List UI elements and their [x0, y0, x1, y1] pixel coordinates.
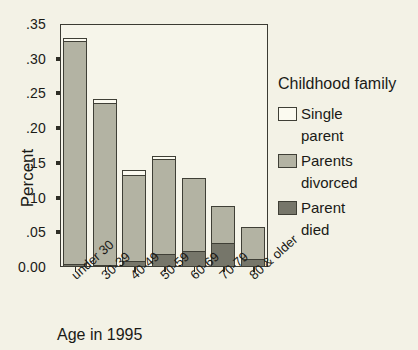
legend-entries: SingleparentParentsdivorcedParentdied [278, 106, 414, 238]
bar-segment[interactable] [211, 206, 235, 243]
legend-label-secondary: died [301, 222, 414, 238]
bar-segment[interactable] [122, 175, 146, 262]
legend-label: Parent [301, 200, 345, 216]
bar-chart-figure: 0.00.05.10.15.20.25.30.35 Percent under … [0, 0, 418, 350]
legend-entry[interactable]: Singleparent [278, 106, 414, 144]
legend-label-secondary: divorced [301, 175, 414, 191]
legend-title: Childhood family [278, 75, 414, 93]
legend-row: Parents [278, 153, 414, 169]
legend-entry[interactable]: Parentdied [278, 200, 414, 238]
bar-segment[interactable] [152, 159, 176, 254]
legend-entry[interactable]: Parentsdivorced [278, 153, 414, 191]
bar-group[interactable] [152, 156, 176, 267]
legend-swatch [278, 201, 297, 215]
bar-segment[interactable] [182, 178, 206, 251]
x-axis-title: Age in 1995 [57, 326, 142, 344]
x-axis-labels: under 3030-3940-4950-5960-6970-7980 & ol… [60, 272, 290, 332]
bars-layer [60, 24, 268, 267]
bar-segment[interactable] [63, 41, 87, 264]
legend-swatch [278, 107, 297, 121]
legend-label: Single [301, 106, 343, 122]
legend-label: Parents [301, 153, 353, 169]
y-tick-label: .35 [26, 17, 46, 31]
legend-row: Parent [278, 200, 414, 216]
y-tick-label: .30 [26, 52, 46, 66]
legend-row: Single [278, 106, 414, 122]
y-axis-title: Percent [18, 98, 38, 258]
legend-label-secondary: parent [301, 128, 414, 144]
bar-group[interactable] [63, 38, 87, 267]
y-tick-label: 0.00 [18, 260, 46, 274]
legend: Childhood family SingleparentParentsdivo… [278, 75, 414, 247]
legend-swatch [278, 154, 297, 168]
